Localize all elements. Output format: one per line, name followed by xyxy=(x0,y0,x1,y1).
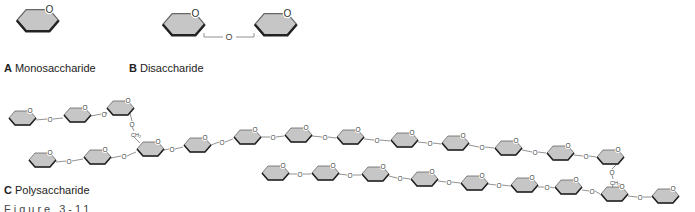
sugar-ring xyxy=(547,142,574,160)
glycosidic-bond xyxy=(134,137,140,143)
glycosidic-bond xyxy=(111,156,121,158)
glycosidic-bond xyxy=(339,174,347,175)
sugar-ring xyxy=(362,163,389,181)
sugar-ring xyxy=(107,97,134,115)
atom-label: O xyxy=(270,134,275,141)
glycosidic-bond xyxy=(175,147,183,149)
sugar-ring xyxy=(9,107,36,125)
glycosidic-bond xyxy=(612,175,613,179)
glycosidic-bond xyxy=(56,161,66,162)
glycosidic-bond xyxy=(312,136,322,137)
glycosidic-bond xyxy=(276,136,284,137)
sugar-ring xyxy=(391,129,418,147)
atom-label: O xyxy=(322,134,327,141)
glycosidic-bond xyxy=(53,118,63,119)
sugar-ring xyxy=(163,8,205,35)
glycosidic-bond xyxy=(502,185,510,186)
glycosidic-bond xyxy=(438,181,446,182)
glycosidic-bond xyxy=(211,142,219,145)
sugar-ring xyxy=(442,132,469,150)
glycosidic-bond xyxy=(91,114,101,116)
glycosidic-bond xyxy=(328,137,336,138)
sugar-ring xyxy=(64,104,91,122)
glycosidic-bond xyxy=(433,143,441,144)
sugar-ring xyxy=(29,149,56,167)
glycosidic-bond xyxy=(628,196,637,197)
glycosidic-bond xyxy=(589,156,596,157)
atom-label: O xyxy=(347,172,352,179)
atom-label: O xyxy=(297,171,302,178)
atom-label: O xyxy=(532,149,537,156)
glycosidic-bond xyxy=(72,159,83,161)
atom-label: O xyxy=(637,194,642,201)
sugar-ring xyxy=(137,138,164,156)
atom-label: O xyxy=(427,140,432,147)
monosaccharide-structure xyxy=(17,4,59,31)
atom-label: O xyxy=(169,146,174,153)
sugar-ring xyxy=(597,146,624,164)
atom-label: O xyxy=(583,153,588,160)
sugar-ring xyxy=(285,124,312,142)
glycosidic-bond xyxy=(522,150,532,152)
atom-label: O xyxy=(121,153,126,160)
glycosidic-bond xyxy=(127,152,136,156)
label-disaccharide: BDisaccharide xyxy=(129,62,204,74)
glycosidic-bond xyxy=(574,155,583,156)
label-polysaccharide: CPolysaccharide xyxy=(4,184,90,196)
atom-label: O xyxy=(225,32,232,42)
sugar-ring xyxy=(84,146,111,164)
saccharide-diagram: O O OOOOOOOOOOOOOOOOOOOOOOCH₂OCH₂ xyxy=(0,0,695,212)
sugar-ring xyxy=(411,168,438,186)
atom-label: O xyxy=(374,137,379,144)
sugar-ring xyxy=(601,183,628,201)
glycosidic-bond xyxy=(36,119,47,120)
sugar-ring xyxy=(17,4,59,31)
glycosidic-bond xyxy=(364,139,374,140)
glycosidic-bond xyxy=(403,178,410,179)
atom-label: O xyxy=(544,184,549,191)
glycosidic-bond xyxy=(595,191,600,194)
glycosidic-bond xyxy=(132,127,134,131)
sugar-ring xyxy=(262,162,289,180)
sugar-ring xyxy=(555,176,582,194)
glycosidic-bond xyxy=(582,190,589,191)
atom-label: O xyxy=(101,111,106,118)
sugar-ring xyxy=(312,162,339,180)
label-monosaccharide: AMonosaccharide xyxy=(4,62,96,74)
glycosidic-bond xyxy=(225,139,233,142)
sugar-ring xyxy=(255,8,297,35)
sugar-ring xyxy=(652,185,679,203)
glycosidic-bond xyxy=(380,140,390,141)
glycosidic-bond xyxy=(452,182,460,183)
atom-label: O xyxy=(219,139,224,146)
figure-caption: Figure 3-11 xyxy=(4,203,92,212)
atom-label: O xyxy=(496,182,501,189)
sugar-ring xyxy=(184,134,211,152)
sugar-ring xyxy=(234,126,261,144)
atom-label: O xyxy=(479,144,484,151)
glycosidic-bond xyxy=(164,149,169,150)
glycosidic-bond xyxy=(488,184,496,185)
atom-label: O xyxy=(47,116,52,123)
glycosidic-bond xyxy=(418,142,427,143)
disaccharide-structure: O xyxy=(163,8,297,42)
atom-label: O xyxy=(129,121,134,128)
glycosidic-bond xyxy=(538,152,546,153)
atom-label: O xyxy=(397,175,402,182)
atom-label: O xyxy=(446,179,451,186)
atom-label: O xyxy=(609,169,614,176)
glycosidic-bond xyxy=(550,187,554,188)
sugar-ring xyxy=(511,174,538,192)
glycosidic-bond xyxy=(469,145,479,147)
sugar-ring xyxy=(337,126,364,144)
glycosidic-bond xyxy=(389,176,397,178)
atom-label: O xyxy=(589,188,594,195)
polysaccharide-structure: OOOOOOOOOOOOOOOOOOOOOOCH₂OCH₂ xyxy=(9,97,679,203)
atom-label: O xyxy=(66,158,71,165)
sugar-ring xyxy=(461,172,488,190)
sugar-ring xyxy=(495,137,522,155)
glycosidic-bond xyxy=(485,147,494,148)
atom-label: CH₂ xyxy=(131,132,141,138)
